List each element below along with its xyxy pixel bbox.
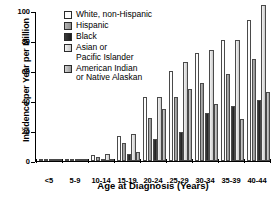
x-tick-mark (36, 159, 37, 163)
bar (131, 134, 135, 161)
legend-label: Hispanic (76, 21, 109, 31)
bar (169, 71, 173, 161)
x-tick-mark (62, 159, 63, 163)
x-tick-mark (140, 159, 141, 163)
y-tick-label: 0 (6, 158, 30, 166)
y-tick-label: 20 (6, 128, 30, 136)
x-tick-mark (114, 159, 115, 163)
bar-group (218, 12, 244, 161)
bar (75, 159, 79, 161)
y-tick-mark (31, 162, 35, 163)
legend-swatch-icon (64, 22, 72, 30)
legend-item: Asian or Pacific Islander (64, 43, 204, 62)
legend-label: Asian or Pacific Islander (76, 43, 134, 62)
bar (231, 106, 235, 161)
y-tick-label: 60 (6, 68, 30, 76)
bar (44, 159, 48, 161)
bar (261, 5, 265, 161)
chart-figure: Incidence per Year per Million 020406080… (0, 0, 274, 198)
legend-swatch-icon (64, 44, 72, 52)
bar (117, 136, 121, 162)
bar (209, 50, 213, 161)
x-axis-title: Age at Diagnosis (Years) (35, 180, 271, 191)
bar (65, 159, 69, 161)
bar (122, 143, 126, 161)
legend-item: Black (64, 32, 204, 42)
x-tick-mark (218, 159, 219, 163)
bar (53, 159, 57, 161)
bar (49, 159, 53, 161)
bar (143, 97, 147, 161)
bar (153, 139, 157, 162)
bar (127, 154, 131, 162)
bar (226, 74, 230, 161)
chart-legend: White, non-HispanicHispanicBlackAsian or… (64, 10, 204, 84)
legend-label: American Indian or Native Alaskan (76, 64, 142, 83)
bar (247, 20, 251, 161)
legend-item: White, non-Hispanic (64, 10, 204, 20)
legend-label: Black (76, 32, 97, 42)
y-tick-mark (31, 42, 35, 43)
bar (200, 83, 204, 161)
x-tick-mark (192, 159, 193, 163)
y-tick-mark (31, 132, 35, 133)
legend-label: White, non-Hispanic (76, 10, 152, 20)
bar (257, 100, 261, 162)
bar-group (36, 12, 62, 161)
x-tick-mark (270, 159, 271, 163)
bar (101, 159, 105, 161)
x-axis-line (35, 161, 271, 162)
bar (105, 154, 109, 161)
bar (221, 40, 225, 162)
y-tick-mark (31, 102, 35, 103)
y-tick-label: 100 (6, 8, 30, 16)
bar (79, 159, 83, 161)
bar-group (244, 12, 270, 161)
bar (174, 97, 178, 161)
bar (91, 155, 95, 161)
x-tick-mark (244, 159, 245, 163)
legend-swatch-icon (64, 11, 72, 19)
legend-swatch-icon (64, 65, 72, 73)
bar (205, 113, 209, 161)
bar (252, 59, 256, 161)
bar (235, 40, 239, 162)
x-tick-mark (88, 159, 89, 163)
x-tick-mark (166, 159, 167, 163)
bar (179, 132, 183, 161)
y-tick-mark (31, 72, 35, 73)
legend-item: Hispanic (64, 21, 204, 31)
legend-swatch-icon (64, 33, 72, 41)
y-tick-label: 80 (6, 38, 30, 46)
y-tick-label: 40 (6, 98, 30, 106)
bar (39, 159, 43, 161)
bar (70, 159, 74, 161)
bar (157, 97, 161, 162)
bar (148, 118, 152, 162)
y-tick-mark (31, 12, 35, 13)
bar (266, 92, 270, 161)
legend-item: American Indian or Native Alaskan (64, 64, 204, 83)
bar (96, 157, 100, 162)
